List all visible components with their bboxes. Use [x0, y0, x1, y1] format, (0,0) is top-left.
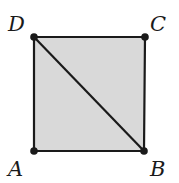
label-c: C [150, 12, 166, 36]
label-d: D [7, 12, 25, 36]
vertex-d-point [30, 33, 38, 41]
square-diagram: D C A B [0, 0, 179, 183]
vertex-a-point [30, 147, 38, 155]
vertex-c-point [141, 33, 149, 41]
vertex-b-point [140, 147, 148, 155]
label-b: B [149, 157, 165, 181]
label-a: A [6, 157, 23, 181]
